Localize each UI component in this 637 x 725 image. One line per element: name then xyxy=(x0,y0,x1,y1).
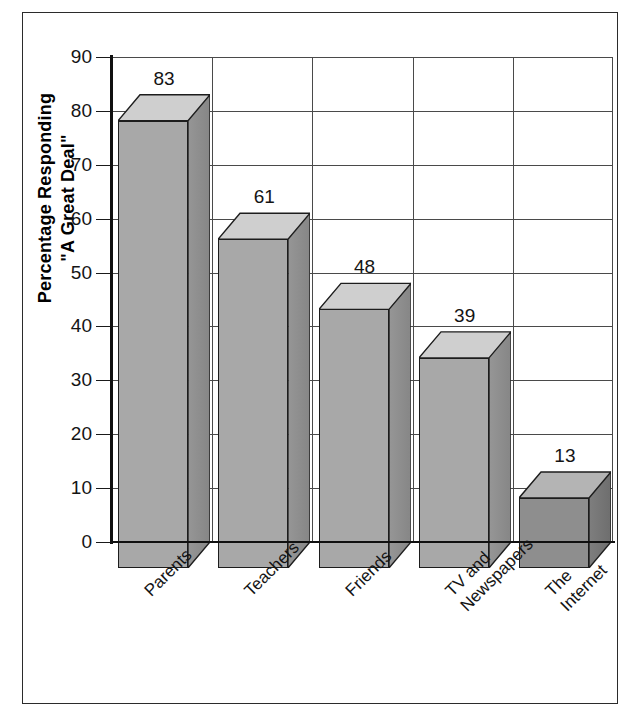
y-tick-mark-70 xyxy=(96,165,110,166)
y-axis-line xyxy=(110,55,113,544)
bar-tv-and-newspapers[interactable] xyxy=(419,57,511,542)
bar-side-face xyxy=(188,95,210,568)
y-tick-label-30: 30 xyxy=(58,370,92,389)
bar-friends[interactable] xyxy=(319,57,411,542)
y-tick-label-80: 80 xyxy=(58,101,92,120)
bar-front-face xyxy=(319,309,389,568)
y-tick-label-90: 90 xyxy=(58,47,92,66)
bar-value-label-2: 48 xyxy=(330,257,400,276)
gridline-v-5 xyxy=(612,57,613,542)
bar-value-label-0: 83 xyxy=(129,69,199,88)
gridline-v-1 xyxy=(212,57,213,542)
bar-side-face xyxy=(288,213,310,568)
bar-chart: Percentage Responding "A Great Deal" 010… xyxy=(0,0,637,725)
bar-teachers[interactable] xyxy=(218,57,310,542)
y-tick-mark-10 xyxy=(96,488,110,489)
y-tick-mark-0 xyxy=(96,542,110,543)
x-axis-baseline xyxy=(110,541,615,543)
y-tick-mark-80 xyxy=(96,111,110,112)
y-tick-label-50: 50 xyxy=(58,263,92,282)
bar-value-label-1: 61 xyxy=(229,187,299,206)
y-tick-label-20: 20 xyxy=(58,424,92,443)
y-tick-label-70: 70 xyxy=(58,155,92,174)
bar-value-label-3: 39 xyxy=(430,306,500,325)
y-tick-mark-30 xyxy=(96,380,110,381)
y-tick-label-10: 10 xyxy=(58,478,92,497)
y-tick-label-60: 60 xyxy=(58,209,92,228)
y-tick-label-40: 40 xyxy=(58,316,92,335)
gridline-v-2 xyxy=(312,57,313,542)
y-tick-mark-20 xyxy=(96,434,110,435)
bar-parents[interactable] xyxy=(118,57,210,542)
y-tick-mark-60 xyxy=(96,219,110,220)
y-tick-label-0: 0 xyxy=(58,532,92,551)
bar-side-face xyxy=(389,283,411,568)
y-tick-mark-40 xyxy=(96,326,110,327)
bar-front-face xyxy=(419,358,489,568)
bar-front-face xyxy=(218,239,288,568)
gridline-v-3 xyxy=(413,57,414,542)
y-axis-tick-labels: 0102030405060708090 xyxy=(52,0,92,725)
gridline-v-4 xyxy=(513,57,514,542)
bar-front-face xyxy=(118,121,188,568)
y-tick-mark-90 xyxy=(96,57,110,58)
bar-value-label-4: 13 xyxy=(530,446,600,465)
plot-area xyxy=(112,57,613,542)
y-tick-mark-50 xyxy=(96,273,110,274)
bar-the-internet[interactable] xyxy=(519,57,611,542)
